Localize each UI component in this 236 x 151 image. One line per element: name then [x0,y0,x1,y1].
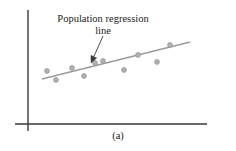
annotation-label-line1: Population regression [0,13,206,25]
data-point [168,43,173,48]
data-point [93,61,98,66]
data-point [82,74,87,79]
data-point [54,78,59,83]
regression-line-group [42,42,190,79]
annotation-arrow-shaft [94,36,103,57]
data-point [70,66,75,71]
data-point [122,68,127,73]
population-regression-line [42,42,190,79]
data-point [155,60,160,65]
panel-label: (a) [0,130,236,141]
data-point [136,53,141,58]
figure-panel-a: Population regression line (a) [0,0,236,151]
annotation-label-line2: line [0,25,206,37]
data-point [101,59,106,64]
data-point [45,69,50,74]
